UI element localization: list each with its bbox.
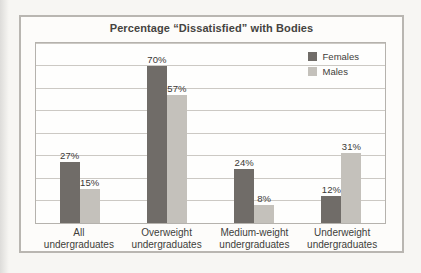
bar-value-label: 12% bbox=[322, 184, 341, 195]
category-label: Overweightundergraduates bbox=[123, 227, 211, 250]
bar-value-label: 15% bbox=[80, 177, 99, 188]
legend-label: Males bbox=[323, 66, 348, 77]
chart-panel: Percentage “Dissatisfied” with Bodies 27… bbox=[19, 15, 404, 253]
category-labels: AllundergraduatesOverweightundergraduate… bbox=[35, 227, 386, 250]
legend: FemalesMales bbox=[308, 51, 359, 77]
category-label: Medium-weightundergraduates bbox=[211, 227, 299, 250]
bar-group: 70%57% bbox=[123, 43, 210, 223]
bar-value-label: 8% bbox=[257, 193, 271, 204]
bar-females-2: 24% bbox=[234, 169, 254, 223]
page-scan-edge bbox=[0, 0, 9, 273]
category-label: Allundergraduates bbox=[35, 227, 123, 250]
bar-males-0: 15% bbox=[80, 189, 100, 223]
bar-group: 24%8% bbox=[211, 43, 298, 223]
legend-swatch-icon bbox=[308, 67, 317, 76]
bar-value-label: 31% bbox=[342, 141, 361, 152]
bar-females-3: 12% bbox=[321, 196, 341, 223]
bar-value-label: 70% bbox=[147, 54, 166, 65]
legend-label: Females bbox=[323, 51, 359, 62]
category-label: Underweightundergraduates bbox=[298, 227, 386, 250]
bar-males-1: 57% bbox=[167, 95, 187, 223]
bar-value-label: 24% bbox=[235, 157, 254, 168]
bar-females-1: 70% bbox=[147, 66, 167, 224]
legend-swatch-icon bbox=[308, 52, 317, 61]
chart-title: Percentage “Dissatisfied” with Bodies bbox=[21, 22, 402, 34]
bar-females-0: 27% bbox=[60, 162, 80, 223]
bar-males-2: 8% bbox=[254, 205, 274, 223]
bar-value-label: 27% bbox=[60, 150, 79, 161]
bar-males-3: 31% bbox=[341, 153, 361, 223]
legend-item-females: Females bbox=[308, 51, 359, 62]
legend-item-males: Males bbox=[308, 66, 359, 77]
bar-group: 27%15% bbox=[36, 43, 123, 223]
bar-value-label: 57% bbox=[167, 83, 186, 94]
plot-area: 27%15%70%57%24%8%12%31% FemalesMales bbox=[35, 42, 386, 224]
